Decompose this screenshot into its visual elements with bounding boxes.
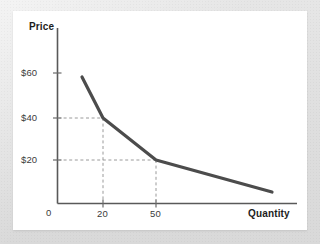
- x-tick-label-20: 20: [97, 208, 108, 219]
- x-axis-title: Quantity: [248, 208, 290, 219]
- y-tick-label-40: $40: [21, 112, 37, 123]
- y-tick-label-60: $60: [21, 67, 37, 78]
- y-axis-title: Price: [29, 21, 54, 32]
- demand-curve-line: [82, 77, 272, 192]
- x-tick-label-50: 50: [150, 208, 161, 219]
- demand-curve-chart: [13, 11, 307, 230]
- origin-label: 0: [46, 207, 51, 218]
- y-tick-label-20: $20: [21, 154, 37, 165]
- chart-card: $60 $40 $20 0 20 50 Price Quantity: [13, 11, 307, 230]
